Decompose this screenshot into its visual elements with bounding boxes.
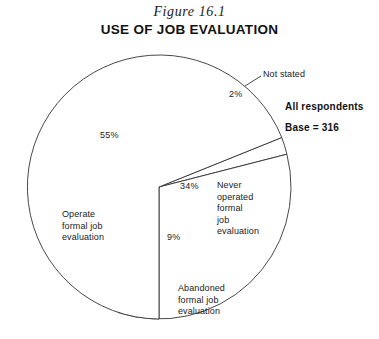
figure-container: Figure 16.1 USE OF JOB EVALUATION 55% Op… bbox=[0, 0, 379, 339]
all-respondents-note: All respondents bbox=[285, 101, 364, 112]
slice-percent-abandoned: 9% bbox=[167, 232, 180, 242]
not-stated-leader-line bbox=[245, 76, 261, 86]
slice-label-operate: Operate formal job evaluation bbox=[62, 209, 104, 244]
slice-label-not-stated: Not stated bbox=[263, 69, 305, 79]
slice-percent-never-operated: 34% bbox=[180, 181, 199, 191]
slice-percent-operate: 55% bbox=[100, 130, 119, 140]
slice-label-never-operated: Never operated formal job evaluation bbox=[217, 180, 259, 238]
slice-percent-not-stated: 2% bbox=[229, 89, 242, 99]
base-note: Base = 316 bbox=[285, 122, 339, 133]
slice-label-abandoned: Abandoned formal job evaluation bbox=[178, 283, 225, 318]
